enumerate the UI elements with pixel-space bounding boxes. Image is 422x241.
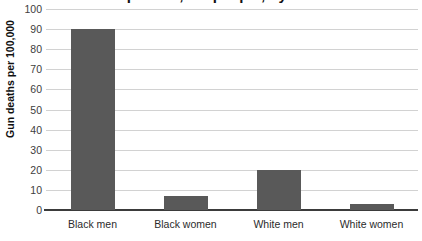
y-axis-tick-label: 40 <box>2 124 42 137</box>
bars-layer <box>46 9 418 210</box>
y-axis-tick-label: 30 <box>2 144 42 157</box>
y-axis-tick-label: 60 <box>2 83 42 96</box>
y-axis-tick-label: 0 <box>2 204 42 217</box>
y-axis-tick-label: 10 <box>2 184 42 197</box>
x-axis-tick-label: Black women <box>139 216 232 232</box>
y-axis-tick-label: 90 <box>2 23 42 36</box>
bar[interactable] <box>350 204 394 210</box>
y-axis-tick-label: 50 <box>2 104 42 117</box>
y-axis-tick-label: 20 <box>2 164 42 177</box>
bar[interactable] <box>257 170 301 210</box>
x-axis-tick-label: White men <box>232 216 325 232</box>
x-axis-tick-label: Black men <box>46 216 139 232</box>
y-axis-tick-label: 100 <box>2 3 42 16</box>
x-axis-tick-labels: Black menBlack womenWhite menWhite women <box>46 213 418 235</box>
y-axis-tick-label: 70 <box>2 63 42 76</box>
bar[interactable] <box>164 196 208 210</box>
chart-title: Gun deaths per 100,000 people, by race a… <box>0 0 422 4</box>
x-axis-tick-label: White women <box>325 216 418 232</box>
bar-chart-figure: Gun deaths per 100,000 people, by race a… <box>0 0 422 241</box>
bar[interactable] <box>71 29 115 210</box>
y-axis-tick-labels: 0102030405060708090100 <box>0 0 42 241</box>
y-axis-tick-label: 80 <box>2 43 42 56</box>
